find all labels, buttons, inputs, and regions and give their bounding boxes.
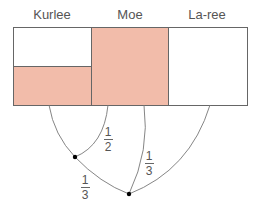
fraction-numerator: 1 [105,126,112,138]
fraction-denominator: 3 [146,165,153,177]
node-dot-final [127,192,131,196]
node-dot-first [73,155,77,159]
diagram-canvas [0,0,259,209]
fraction-one-half: 1 2 [102,126,114,153]
curve-la-ree-to-join [129,105,210,194]
box-la-ree [169,28,248,106]
fraction-numerator: 1 [82,174,89,186]
fraction-one-third-left: 1 3 [79,174,91,201]
fraction-one-third-right: 1 3 [143,150,155,177]
kurlee-shaded-half [14,67,92,106]
fraction-denominator: 2 [105,141,112,153]
fraction-numerator: 1 [146,150,153,162]
fraction-denominator: 3 [82,189,89,201]
box-kurlee [14,28,92,106]
curve-kurlee-to-node [49,105,75,157]
box-moe [92,28,169,106]
